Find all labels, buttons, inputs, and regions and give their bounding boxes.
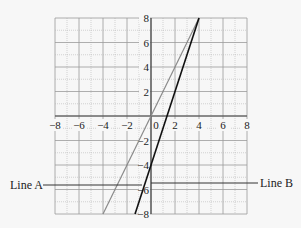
y-tick-label: 6	[144, 37, 150, 49]
y-tick-label: −8	[137, 208, 149, 220]
y-tick-label: 2	[144, 86, 150, 98]
y-tick-label: 4	[144, 61, 150, 73]
y-tick-label: −4	[137, 159, 149, 171]
x-tick-label: −6	[73, 119, 85, 131]
x-tick-label: 8	[244, 119, 250, 131]
x-tick-label: −2	[121, 119, 133, 131]
x-tick-label: −8	[49, 119, 61, 131]
y-tick-label: 8	[144, 12, 150, 24]
x-tick-label: 2	[172, 119, 178, 131]
x-tick-label: 6	[220, 119, 226, 131]
x-tick-label: −4	[97, 119, 109, 131]
x-tick-label: 4	[196, 119, 202, 131]
line-b-label: Line B	[260, 176, 293, 190]
line-a-label: Line A	[10, 178, 43, 192]
x-tick-label: 0	[153, 119, 159, 131]
coordinate-plane-chart: −8−6−4−2024688642−2−4−6−8 Line A Line B	[0, 0, 301, 228]
